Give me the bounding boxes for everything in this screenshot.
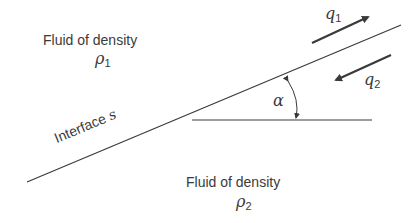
upper-fluid-density-symbol: ρ1	[95, 51, 111, 71]
interface-line	[27, 25, 401, 182]
upper-fluid-label: Fluid of density	[43, 32, 137, 48]
lower-fluid-label: Fluid of density	[186, 174, 280, 190]
flow-q1-label: q1	[325, 6, 341, 26]
rho-symbol: ρ	[95, 49, 104, 68]
angle-arc	[288, 81, 297, 118]
q-symbol: q	[325, 4, 335, 23]
interface-diagram: Fluid of density ρ1 Fluid of density ρ2 …	[0, 0, 415, 223]
rho-subscript: 2	[245, 200, 251, 212]
angle-alpha-label: α	[273, 93, 284, 109]
q-subscript: 2	[374, 78, 380, 90]
lower-fluid-density-symbol: ρ2	[236, 194, 252, 214]
q-symbol: q	[364, 70, 374, 89]
q-subscript: 1	[335, 12, 341, 24]
rho-symbol: ρ	[236, 192, 245, 211]
flow-q2-label: q2	[364, 72, 380, 92]
rho-subscript: 1	[104, 57, 110, 69]
